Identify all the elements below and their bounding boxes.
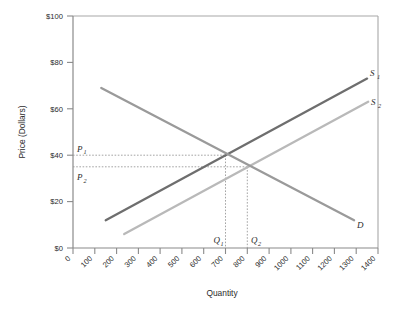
y-tick-label-100: $100 xyxy=(46,12,63,21)
price-marker-p1-subscript: 1 xyxy=(84,148,87,155)
supply-curve-s2 xyxy=(124,102,368,234)
y-tick-label-40: $40 xyxy=(50,151,63,160)
x-tick-label-400: 400 xyxy=(144,254,159,269)
x-tick-label-0: 0 xyxy=(63,254,72,263)
x-tick-label-500: 500 xyxy=(166,254,181,269)
curve-label-s2-subscript: 2 xyxy=(378,102,381,109)
x-tick-label-900: 900 xyxy=(253,254,268,269)
price-marker-p2-subscript: 2 xyxy=(84,177,87,184)
y-axis-tick-labels: $0 $20 $40 $60 $80 $100 xyxy=(46,12,63,253)
x-tick-label-1100: 1100 xyxy=(294,254,312,272)
x-axis-tick-labels: 0 100 200 300 400 500 600 700 800 900 10… xyxy=(63,254,377,272)
y-tick-label-0: $0 xyxy=(55,244,63,253)
x-tick-label-1300: 1300 xyxy=(337,254,355,272)
curve-labels: S 1 S 2 D xyxy=(356,68,381,230)
x-tick-label-300: 300 xyxy=(122,254,137,269)
x-axis-ticks xyxy=(73,248,378,254)
x-tick-label-700: 700 xyxy=(210,254,225,269)
x-tick-label-200: 200 xyxy=(101,254,116,269)
y-tick-label-80: $80 xyxy=(50,58,63,67)
demand-curve-d xyxy=(101,88,354,220)
quantity-marker-q1: Q xyxy=(214,235,221,245)
y-tick-label-60: $60 xyxy=(50,105,63,114)
supply-demand-chart-figure: $0 $20 $40 $60 $80 $100 0 1 xyxy=(0,0,405,314)
y-axis-title: Price (Dollars) xyxy=(17,105,27,158)
y-axis-ticks xyxy=(67,16,73,248)
axis-value-markers: P 1 P 2 Q 1 Q 2 xyxy=(76,144,261,247)
curve-label-s2: S xyxy=(371,97,376,107)
price-marker-p1: P xyxy=(76,144,83,154)
x-tick-label-1000: 1000 xyxy=(272,254,290,272)
x-tick-label-1400: 1400 xyxy=(359,254,377,272)
quantity-marker-q2-subscript: 2 xyxy=(258,240,261,247)
supply-curve-s1 xyxy=(106,79,367,221)
chart-canvas: $0 $20 $40 $60 $80 $100 0 1 xyxy=(0,0,405,314)
x-tick-label-1200: 1200 xyxy=(315,254,333,272)
x-axis-title: Quantity xyxy=(206,288,238,298)
price-marker-p2: P xyxy=(76,172,83,182)
curve-label-s1: S xyxy=(370,68,375,78)
quantity-marker-q2: Q xyxy=(251,235,258,245)
x-tick-label-600: 600 xyxy=(188,254,203,269)
curve-label-d: D xyxy=(356,220,364,230)
equilibrium-guides xyxy=(73,155,247,248)
x-tick-label-800: 800 xyxy=(231,254,246,269)
curve-label-s1-subscript: 1 xyxy=(377,73,380,80)
x-tick-label-100: 100 xyxy=(79,254,94,269)
y-tick-label-20: $20 xyxy=(50,197,63,206)
quantity-marker-q1-subscript: 1 xyxy=(221,240,224,247)
curves xyxy=(101,79,368,235)
